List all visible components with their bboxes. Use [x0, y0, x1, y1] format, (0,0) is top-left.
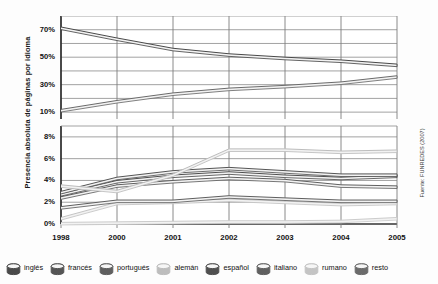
legend-item-frances[interactable]: francés [50, 262, 92, 275]
legend-label: alemán [174, 264, 198, 271]
x-tick-label: 2004 [332, 234, 349, 242]
legend-label: español [223, 264, 249, 271]
plot-area [57, 16, 405, 231]
legend-label: francés [68, 264, 92, 271]
legend-cylinder-icon [256, 262, 271, 275]
legend-cylinder-icon [50, 262, 65, 275]
legend-cylinder-icon [354, 262, 369, 275]
legend-cylinder-icon [205, 262, 220, 275]
chart-figure: Presencia absoluta de páginas por idioma… [0, 0, 438, 284]
y-tick-label: 50% [21, 53, 55, 61]
legend-item-rumano[interactable]: rumano [304, 262, 347, 275]
legend-item-portugues[interactable]: portugués [99, 262, 149, 275]
legend-cylinder-icon [304, 262, 319, 275]
legend-label: portugués [117, 264, 149, 271]
y-tick-label: 30% [21, 81, 55, 89]
legend-label: rumano [322, 264, 347, 271]
legend-cylinder-icon [6, 262, 21, 275]
y-tick-label: 2% [21, 198, 55, 206]
legend-label: italiano [274, 264, 297, 271]
legend-item-aleman[interactable]: alemán [156, 262, 198, 275]
x-tick-label: 2005 [388, 234, 405, 242]
legend-label: resto [372, 264, 388, 271]
y-tick-label: 70% [21, 26, 55, 34]
legend-cylinder-icon [99, 262, 114, 275]
chart-canvas [57, 16, 405, 231]
y-tick-label: 4% [21, 176, 55, 184]
legend-cylinder-icon [156, 262, 171, 275]
y-tick-label: 8% [21, 133, 55, 141]
y-axis-ticks: 10%30%50%70%0%2%4%6%8% [17, 16, 55, 231]
x-tick-label: 1998 [52, 234, 69, 242]
x-tick-label: 2002 [220, 234, 237, 242]
legend-item-resto[interactable]: resto [354, 262, 388, 275]
x-tick-label: 2000 [108, 234, 125, 242]
legend-item-espanol[interactable]: español [205, 262, 249, 275]
source-note: Fuente: FUNREDES (2007) [419, 119, 425, 207]
legend-item-italiano[interactable]: italiano [256, 262, 297, 275]
x-tick-label: 2001 [164, 234, 181, 242]
y-tick-label: 6% [21, 155, 55, 163]
x-axis-ticks: 1998200020012002200320042005 [57, 234, 405, 248]
y-tick-label: 0% [21, 220, 55, 228]
legend-label: inglés [24, 264, 43, 271]
x-tick-label: 2003 [276, 234, 293, 242]
y-tick-label: 10% [21, 108, 55, 116]
chart-legend: inglésfrancésportuguésalemánespañolitali… [6, 256, 432, 280]
legend-item-ingles[interactable]: inglés [6, 262, 43, 275]
